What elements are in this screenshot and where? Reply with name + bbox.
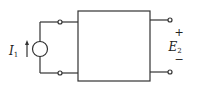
input-terminal-bottom bbox=[58, 71, 62, 75]
output-terminal-top bbox=[168, 18, 172, 22]
plus-sign: + bbox=[174, 26, 183, 39]
input-terminal-top bbox=[58, 20, 62, 24]
current-source-icon bbox=[33, 42, 48, 57]
network-box bbox=[78, 11, 150, 81]
minus-sign: − bbox=[174, 53, 183, 66]
output-terminal-bottom bbox=[168, 70, 172, 74]
source-label: I1 bbox=[8, 44, 18, 59]
two-port-diagram: I1 + E2 − bbox=[0, 0, 199, 87]
arrow-up-icon bbox=[25, 40, 29, 45]
